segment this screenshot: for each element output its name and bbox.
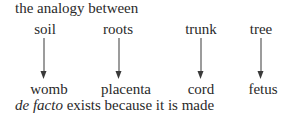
bottom-label-womb: womb (30, 82, 68, 97)
top-label-soil: soil (34, 22, 56, 37)
top-label-tree: tree (250, 22, 272, 37)
down-arrow-icon (115, 38, 124, 79)
top-label-trunk: trunk (185, 22, 217, 37)
down-arrow-icon (197, 38, 206, 79)
conclusion-text: de facto exists because it is made (15, 98, 214, 113)
intro-text: the analogy between (15, 1, 138, 16)
down-arrow-icon (40, 38, 49, 79)
conclusion-rest: exists because it is made (63, 97, 214, 113)
bottom-label-fetus: fetus (248, 82, 277, 97)
bottom-label-placenta: placenta (101, 82, 151, 97)
down-arrow-icon (257, 38, 266, 79)
top-label-roots: roots (103, 22, 133, 37)
bottom-label-cord: cord (188, 82, 215, 97)
conclusion-italic: de facto (15, 97, 63, 113)
